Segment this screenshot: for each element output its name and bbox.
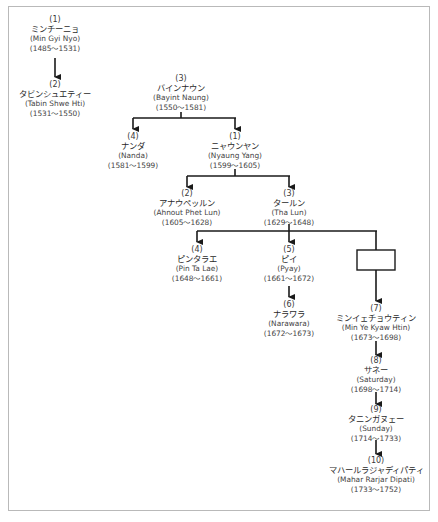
empty-box: [357, 250, 395, 270]
node-years: (1661～1672): [229, 274, 349, 284]
node-name-jp: ミンチーニョ: [0, 25, 115, 35]
node-mahar-rarjar-dipati: (10) マハールラジャディパティ (Mahar Rarjar Dipati) …: [301, 456, 438, 494]
node-years: (1599～1605): [175, 161, 295, 171]
node-name-en: (Min Ye Kyaw Htin): [301, 323, 438, 333]
node-name-en: (Bayint Naung): [121, 93, 241, 103]
node-min-gyi-nyo: (1) ミンチーニョ (Min Gyi Nyo) (1485～1531): [0, 15, 115, 53]
node-name-en: (Saturday): [316, 375, 436, 385]
node-name-jp: ピイ: [229, 255, 349, 265]
node-name-jp: ミンイェチョウティン: [301, 314, 438, 324]
node-years: (1673～1698): [301, 333, 438, 343]
node-name-jp: バインナウン: [121, 84, 241, 94]
node-years: (1485～1531): [0, 44, 115, 54]
node-years: (1531～1550): [0, 109, 115, 119]
node-bayint-naung: (3) バインナウン (Bayint Naung) (1550～1581): [121, 74, 241, 112]
node-nyaung-yang: (1) ニャウンヤン (Nyaung Yang) (1599～1605): [175, 132, 295, 170]
node-sunday: (9) タニンガヌェー (Sunday) (1714～1733): [316, 405, 436, 443]
node-name-en: (Sunday): [316, 424, 436, 434]
node-name-jp: ニャウンヤン: [175, 142, 295, 152]
node-years: (1550～1581): [121, 103, 241, 113]
node-name-en: (Pyay): [229, 264, 349, 274]
node-name-en: (Tha Lun): [229, 208, 349, 218]
node-name-en: (Nyaung Yang): [175, 151, 295, 161]
node-name-jp: タニンガヌェー: [316, 415, 436, 425]
node-tabin-shwe-hti: (2) タビンシュエティー (Tabin Shwe Hti) (1531～155…: [0, 80, 115, 118]
node-name-jp: サネー: [316, 366, 436, 376]
node-years: (1714～1733): [316, 434, 436, 444]
node-name-en: (Tabin Shwe Hti): [0, 99, 115, 109]
node-tha-lun: (3) タールン (Tha Lun) (1629～1648): [229, 189, 349, 227]
node-years: (1698～1714): [316, 385, 436, 395]
node-name-jp: マハールラジャディパティ: [301, 466, 438, 476]
node-name-en: (Min Gyi Nyo): [0, 34, 115, 44]
node-min-ye-kyaw-htin: (7) ミンイェチョウティン (Min Ye Kyaw Htin) (1673～…: [301, 304, 438, 342]
node-years: (1733～1752): [301, 485, 438, 495]
node-pyay: (5) ピイ (Pyay) (1661～1672): [229, 245, 349, 283]
node-name-en: (Mahar Rarjar Dipati): [301, 475, 438, 485]
node-years: (1629～1648): [229, 218, 349, 228]
node-name-jp: タビンシュエティー: [0, 90, 115, 100]
node-saturday: (8) サネー (Saturday) (1698～1714): [316, 356, 436, 394]
node-name-jp: タールン: [229, 199, 349, 209]
